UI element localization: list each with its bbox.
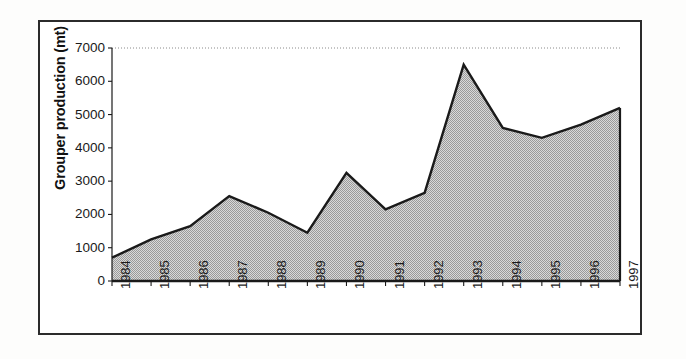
x-tick-label: 1984 — [118, 260, 133, 289]
x-tick-label: 1987 — [235, 260, 250, 289]
x-tick-label: 1993 — [470, 260, 485, 289]
x-tick-label: 1985 — [157, 260, 172, 289]
area-chart-svg — [0, 0, 686, 359]
x-tick-label: 1996 — [587, 260, 602, 289]
x-tick-label: 1992 — [431, 260, 446, 289]
x-tick-label: 1995 — [548, 260, 563, 289]
x-tick-label: 1990 — [352, 260, 367, 289]
x-tick-label: 1989 — [313, 260, 328, 289]
plot-area: Grouper production (mt) 0100020003000400… — [0, 0, 686, 359]
x-tick-label: 1997 — [626, 260, 641, 289]
x-tick-label: 1988 — [274, 260, 289, 289]
area-fill — [112, 65, 620, 281]
x-tick-label: 1991 — [392, 260, 407, 289]
x-tick-label: 1994 — [509, 260, 524, 289]
figure-container: Grouper production (mt) 0100020003000400… — [0, 0, 686, 359]
x-tick-label: 1986 — [196, 260, 211, 289]
